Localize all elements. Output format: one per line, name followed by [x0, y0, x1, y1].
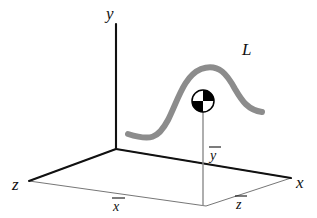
z-bar-label: z — [235, 197, 242, 212]
point-marker-icon — [192, 90, 214, 112]
figure-container: y x z L y x z — [0, 0, 317, 218]
z-axis-label: z — [11, 175, 19, 194]
x-axis-label: x — [295, 173, 304, 192]
curve-label-L: L — [241, 40, 251, 59]
z-axis-line — [29, 149, 116, 181]
y-axis-label: y — [104, 4, 114, 23]
measurement-y-bar: y — [208, 147, 221, 163]
y-bar-label: y — [208, 148, 217, 163]
x-bar-label: x — [112, 199, 120, 214]
measurement-z-bar: z — [235, 196, 247, 212]
coordinate-diagram: y x z L y x z — [0, 0, 317, 218]
reference-plane — [29, 149, 291, 206]
measurement-x-bar: x — [112, 198, 125, 214]
